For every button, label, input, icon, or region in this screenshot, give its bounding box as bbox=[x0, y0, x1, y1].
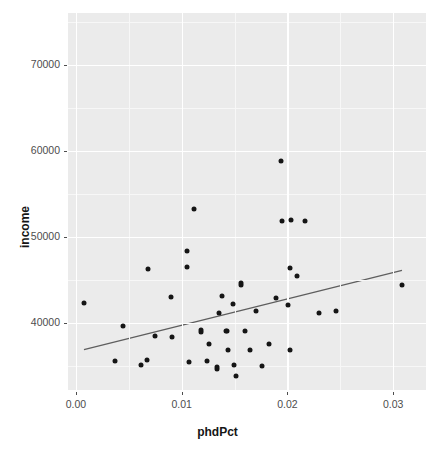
y-axis-tick-mark bbox=[64, 237, 67, 238]
data-point bbox=[295, 274, 300, 279]
y-axis-tick-mark bbox=[64, 151, 67, 152]
data-point bbox=[217, 311, 222, 316]
y-axis-tick-mark bbox=[64, 65, 67, 66]
data-point bbox=[232, 363, 237, 368]
data-point bbox=[279, 159, 284, 164]
data-point bbox=[226, 347, 231, 352]
y-axis-tick-label: 40000 bbox=[12, 316, 60, 328]
data-point bbox=[254, 308, 259, 313]
data-point bbox=[198, 330, 203, 335]
data-point bbox=[243, 328, 248, 333]
scatter-plot-figure: income phdPct 400005000060000700000.000.… bbox=[0, 0, 435, 453]
data-point bbox=[169, 295, 174, 300]
data-point bbox=[207, 341, 212, 346]
data-point bbox=[138, 363, 143, 368]
x-axis-tick-label: 0.01 bbox=[162, 398, 202, 410]
x-gridline-major bbox=[76, 13, 77, 390]
data-point bbox=[145, 267, 150, 272]
x-gridline-minor bbox=[235, 13, 236, 390]
data-point bbox=[153, 333, 158, 338]
y-gridline-minor bbox=[68, 280, 426, 281]
x-axis-tick-label: 0.03 bbox=[373, 398, 413, 410]
x-axis-tick-label: 0.00 bbox=[56, 398, 96, 410]
x-axis-tick-label: 0.02 bbox=[267, 398, 307, 410]
data-point bbox=[145, 357, 150, 362]
data-point bbox=[399, 282, 404, 287]
data-point bbox=[286, 302, 291, 307]
plot-panel bbox=[68, 13, 426, 390]
y-axis-tick-label: 50000 bbox=[12, 230, 60, 242]
data-point bbox=[334, 308, 339, 313]
data-point bbox=[288, 348, 293, 353]
y-gridline-major bbox=[68, 151, 426, 152]
x-axis-label: phdPct bbox=[0, 425, 435, 439]
data-point bbox=[224, 329, 229, 334]
data-point bbox=[113, 358, 118, 363]
x-axis-tick-mark bbox=[182, 392, 183, 395]
data-point bbox=[288, 265, 293, 270]
regression-line-layer bbox=[68, 13, 426, 390]
x-gridline-major bbox=[393, 13, 394, 390]
data-point bbox=[120, 324, 125, 329]
data-point bbox=[239, 281, 244, 286]
data-point bbox=[231, 301, 236, 306]
y-gridline-minor bbox=[68, 366, 426, 367]
data-point bbox=[234, 374, 239, 379]
x-axis-tick-mark bbox=[76, 392, 77, 395]
data-point bbox=[303, 219, 308, 224]
x-gridline-minor bbox=[129, 13, 130, 390]
data-point bbox=[260, 363, 265, 368]
data-point bbox=[317, 310, 322, 315]
y-axis-tick-mark bbox=[64, 323, 67, 324]
data-point bbox=[289, 218, 294, 223]
data-point bbox=[186, 360, 191, 365]
data-point bbox=[169, 334, 174, 339]
data-point bbox=[184, 264, 189, 269]
data-point bbox=[248, 347, 253, 352]
data-point bbox=[274, 295, 279, 300]
y-gridline-minor bbox=[68, 108, 426, 109]
data-point bbox=[184, 248, 189, 253]
y-gridline-minor bbox=[68, 22, 426, 23]
y-axis-tick-label: 60000 bbox=[12, 144, 60, 156]
data-point bbox=[215, 364, 220, 369]
data-point bbox=[267, 342, 272, 347]
x-axis-tick-mark bbox=[287, 392, 288, 395]
x-gridline-major bbox=[182, 13, 183, 390]
data-point bbox=[191, 207, 196, 212]
x-gridline-major bbox=[287, 13, 288, 390]
x-gridline-minor bbox=[340, 13, 341, 390]
y-gridline-minor bbox=[68, 194, 426, 195]
data-point bbox=[81, 301, 86, 306]
y-gridline-major bbox=[68, 65, 426, 66]
y-gridline-major bbox=[68, 237, 426, 238]
data-point bbox=[280, 219, 285, 224]
y-axis-tick-label: 70000 bbox=[12, 58, 60, 70]
x-axis-tick-mark bbox=[393, 392, 394, 395]
data-point bbox=[220, 294, 225, 299]
data-point bbox=[205, 358, 210, 363]
